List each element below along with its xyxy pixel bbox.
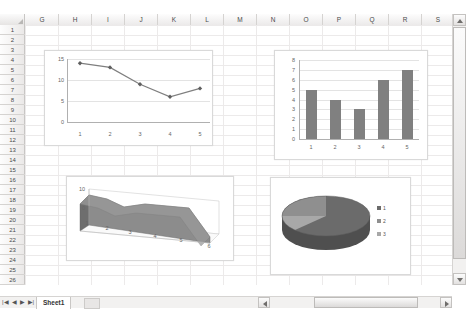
vertical-scrollbar[interactable] (452, 14, 466, 285)
pie-chart-legend: 1 2 3 (377, 205, 386, 244)
vertical-scrollbar-thumb[interactable] (453, 27, 466, 259)
legend-item[interactable]: 2 (377, 218, 386, 224)
column-header-K[interactable]: K (158, 14, 191, 25)
previous-sheet-icon[interactable]: ◀ (12, 298, 17, 305)
row-header-15[interactable]: 15 (0, 165, 25, 175)
bar-chart-xtick: 5 (399, 144, 415, 150)
legend-item[interactable]: 3 (377, 231, 386, 237)
row-header-10[interactable]: 10 (0, 115, 25, 125)
line-chart-marker (78, 61, 82, 65)
horizontal-scrollbar[interactable] (258, 296, 452, 308)
row-header-17[interactable]: 17 (0, 185, 25, 195)
row-header-22[interactable]: 22 (0, 235, 25, 245)
row-header-25[interactable]: 25 (0, 265, 25, 275)
row-header-12[interactable]: 12 (0, 135, 25, 145)
grid-hline (25, 25, 452, 26)
legend-label: 1 (383, 205, 386, 211)
row-header-19[interactable]: 19 (0, 205, 25, 215)
select-all-corner-icon[interactable] (0, 14, 25, 25)
column-header-O[interactable]: O (290, 14, 323, 25)
insert-worksheet-icon[interactable] (84, 298, 100, 309)
bar-chart-ytick: 5 (277, 87, 295, 93)
scroll-right-arrow-icon[interactable] (440, 297, 452, 308)
pie-chart-3d[interactable]: 1 2 3 (270, 177, 411, 275)
column-header-J[interactable]: J (125, 14, 158, 25)
sheet-tab-bar[interactable]: |◀ ◀ ▶ ▶| Sheet1 (0, 296, 258, 308)
column-header-P[interactable]: P (323, 14, 356, 25)
row-header-9[interactable]: 9 (0, 105, 25, 115)
scroll-up-arrow-icon[interactable] (453, 14, 466, 26)
sheet-tab-sheet1[interactable]: Sheet1 (36, 297, 71, 309)
first-sheet-icon[interactable]: |◀ (2, 298, 9, 305)
area-chart-ytick: 0 (69, 205, 85, 211)
bar-chart[interactable]: 012345678 12345 (274, 50, 428, 160)
row-header-8[interactable]: 8 (0, 95, 25, 105)
row-header-24[interactable]: 24 (0, 255, 25, 265)
bar-chart-ytick: 7 (277, 67, 295, 73)
scroll-down-arrow-icon[interactable] (453, 273, 466, 285)
legend-swatch-icon (377, 219, 381, 223)
grid-hline (25, 35, 452, 36)
legend-swatch-icon (377, 232, 381, 236)
row-header-23[interactable]: 23 (0, 245, 25, 255)
row-header-column[interactable]: 1234567891011121314151617181920212223242… (0, 25, 25, 285)
row-header-1[interactable]: 1 (0, 25, 25, 35)
bar-chart-gridline (299, 60, 419, 61)
row-header-3[interactable]: 3 (0, 45, 25, 55)
bar-chart-ytick: 3 (277, 106, 295, 112)
bar-chart-ytick: 2 (277, 116, 295, 122)
area-chart-xtick: 2 (101, 225, 113, 231)
row-header-13[interactable]: 13 (0, 145, 25, 155)
row-header-21[interactable]: 21 (0, 225, 25, 235)
last-sheet-icon[interactable]: ▶| (28, 298, 35, 305)
column-header-Q[interactable]: Q (356, 14, 389, 25)
column-header-R[interactable]: R (389, 14, 422, 25)
row-header-11[interactable]: 11 (0, 125, 25, 135)
bar-chart-ytick: 8 (277, 57, 295, 63)
bar-chart-bar (330, 100, 341, 140)
line-chart[interactable]: 15 10 5 0 1 2 3 4 5 (44, 50, 213, 146)
area-chart-ytick: 10 (69, 186, 85, 192)
row-header-18[interactable]: 18 (0, 195, 25, 205)
row-header-7[interactable]: 7 (0, 85, 25, 95)
area-chart-xtick: 3 (124, 229, 136, 235)
column-header-L[interactable]: L (191, 14, 224, 25)
horizontal-scrollbar-thumb[interactable] (314, 297, 418, 308)
bar-chart-ytick: 1 (277, 126, 295, 132)
column-header-H[interactable]: H (59, 14, 92, 25)
grid-hline (25, 45, 452, 46)
row-header-2[interactable]: 2 (0, 35, 25, 45)
row-header-4[interactable]: 4 (0, 55, 25, 65)
legend-item[interactable]: 1 (377, 205, 386, 211)
row-header-20[interactable]: 20 (0, 215, 25, 225)
next-sheet-icon[interactable]: ▶ (20, 298, 25, 305)
column-header-S[interactable]: S (422, 14, 452, 25)
bar-chart-ytick: 6 (277, 77, 295, 83)
worksheet-grid[interactable]: GHIJKLMNOPQRS 12345678910111213141516171… (0, 14, 452, 285)
bar-chart-ytick: 0 (277, 136, 295, 142)
legend-swatch-icon (377, 206, 381, 210)
bar-chart-bar (354, 109, 365, 139)
column-header-M[interactable]: M (224, 14, 257, 25)
bar-chart-ytick: 4 (277, 97, 295, 103)
column-header-G[interactable]: G (26, 14, 59, 25)
scroll-left-arrow-icon[interactable] (258, 297, 270, 308)
legend-label: 3 (383, 231, 386, 237)
bar-chart-xtick: 3 (351, 144, 367, 150)
row-header-6[interactable]: 6 (0, 75, 25, 85)
bar-chart-bar (306, 90, 317, 139)
line-chart-marker (168, 95, 172, 99)
area-chart-xtick: 5 (175, 237, 187, 243)
row-header-16[interactable]: 16 (0, 175, 25, 185)
row-header-5[interactable]: 5 (0, 65, 25, 75)
cell-area[interactable]: 15 10 5 0 1 2 3 4 5 (25, 25, 452, 285)
row-header-26[interactable]: 26 (0, 275, 25, 285)
row-header-14[interactable]: 14 (0, 155, 25, 165)
column-header-I[interactable]: I (92, 14, 125, 25)
area-chart-xtick: 1 (81, 220, 93, 226)
bar-chart-xtick: 4 (375, 144, 391, 150)
area-chart-3d[interactable]: 10 0 1 2 3 4 5 6 (66, 176, 234, 261)
column-header-N[interactable]: N (257, 14, 290, 25)
line-chart-marker (198, 86, 202, 90)
